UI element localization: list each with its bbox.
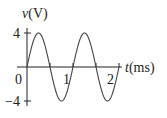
x-tick-label-1: 1 (63, 72, 70, 87)
y-axis-label: v(V) (22, 6, 48, 22)
x-tick-label-0: 0 (15, 72, 22, 87)
sine-wave-chart: v(V) t(ms) 4 −4 0 1 2 (0, 0, 167, 118)
x-tick-label-2: 2 (107, 72, 114, 87)
y-tick-label-neg4: −4 (5, 94, 20, 109)
x-axis-label: t(ms) (125, 60, 155, 76)
y-tick-label-4: 4 (13, 26, 20, 41)
